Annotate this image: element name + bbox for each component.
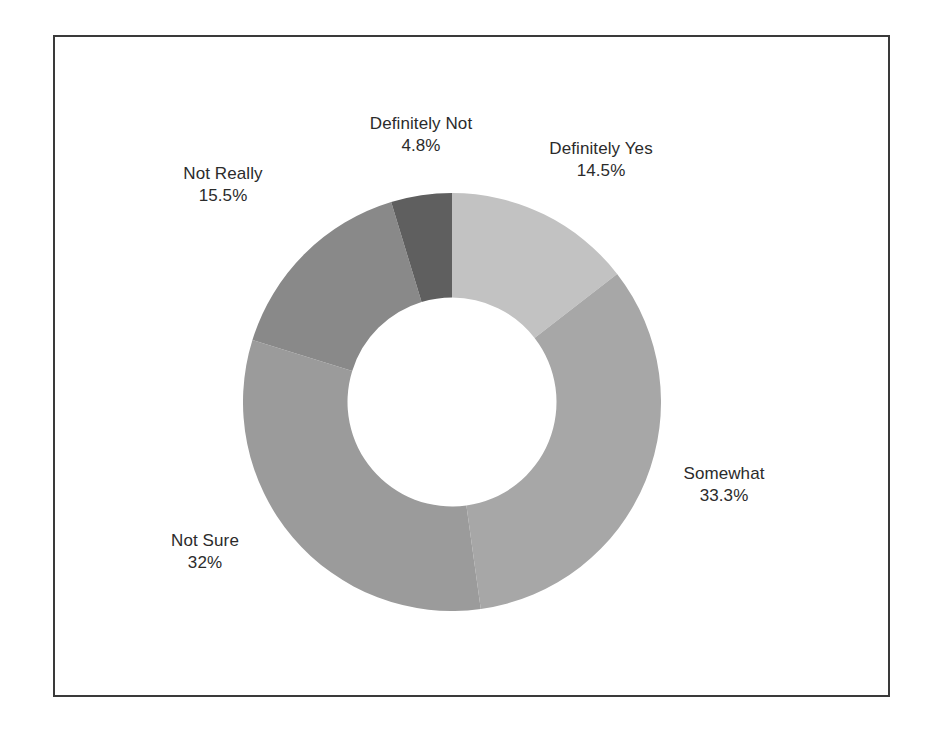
chart-frame xyxy=(53,35,890,697)
